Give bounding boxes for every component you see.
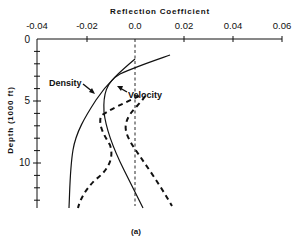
x-tick-label: 0.02: [175, 20, 194, 31]
y-tick-label: 0: [24, 34, 30, 45]
y-axis-title: Depth (1000 ft): [6, 86, 15, 154]
x-tick-label: 0.0: [128, 20, 141, 31]
velocity-label: Velocity: [128, 90, 162, 100]
x-tick-label: 0.06: [273, 20, 292, 31]
y-tick-labels: 0 5 10: [19, 34, 31, 168]
x-tick-labels: -0.04 -0.02 0.0 0.02 0.04 0.06: [26, 20, 291, 31]
reflection-coefficient-chart: Reflection Coefficient -0.04 -0.02 0.0 0…: [0, 0, 301, 240]
x-tick-label: -0.02: [76, 20, 98, 31]
velocity-dashed-curve: [126, 96, 172, 206]
x-axis-title: Reflection Coefficient: [110, 7, 210, 16]
x-tick-label: 0.04: [224, 20, 243, 31]
y-tick-label: 10: [19, 157, 31, 168]
series: [69, 55, 172, 208]
density-dashed-curve: [78, 96, 139, 208]
density-label: Density: [49, 78, 82, 88]
y-tick-label: 5: [24, 95, 30, 106]
x-tick-label: -0.04: [26, 20, 48, 31]
figure-caption: (a): [131, 227, 141, 236]
velocity-solid-curve: [104, 55, 170, 208]
